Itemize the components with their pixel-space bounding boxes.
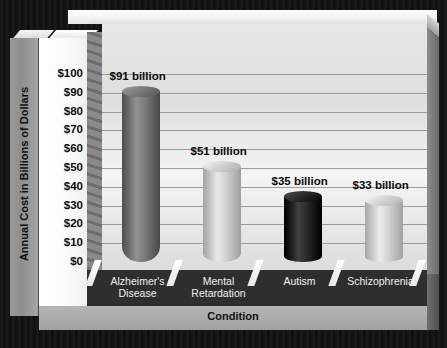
y-axis-tick-label: $70 bbox=[64, 124, 83, 136]
y-axis-tick-label: $0 bbox=[70, 256, 83, 268]
bar-top-ellipse bbox=[122, 86, 160, 97]
x-axis-category-label: Autism bbox=[264, 276, 335, 288]
y-axis-tick-label: $50 bbox=[64, 162, 83, 174]
x-axis-category-label: Mental Retardation bbox=[183, 276, 254, 299]
bar-body bbox=[122, 91, 160, 262]
bar-top-ellipse bbox=[365, 195, 403, 206]
y-axis-tick-panel: $0$10$20$30$40$50$60$70$80$90$100 bbox=[39, 38, 87, 316]
chart-top-bevel bbox=[68, 10, 437, 24]
bar-2[interactable] bbox=[284, 196, 322, 262]
bar-value-label: $33 billion bbox=[353, 179, 409, 191]
y-axis-tick-label: $100 bbox=[57, 68, 83, 80]
chart-screenshot: Annual Cost in Billions of Dollars $0$10… bbox=[0, 0, 447, 348]
right-depth-wall bbox=[427, 28, 439, 287]
floor-right-edge bbox=[427, 274, 439, 330]
axis-side-wall bbox=[87, 32, 102, 270]
x-axis-category-label: Schizophrenia bbox=[345, 276, 416, 288]
bar-top-ellipse bbox=[284, 191, 322, 202]
bar-top-ellipse bbox=[203, 161, 241, 172]
bar-body bbox=[284, 196, 322, 262]
bar-0[interactable] bbox=[122, 91, 160, 262]
y-axis-tick-label: $40 bbox=[64, 181, 83, 193]
bar-body bbox=[203, 166, 241, 262]
bar-1[interactable] bbox=[203, 166, 241, 262]
y-axis-tick-label: $60 bbox=[64, 143, 83, 155]
y-axis-tick-label: $20 bbox=[64, 218, 83, 230]
y-axis-tick-label: $30 bbox=[64, 200, 83, 212]
y-axis-tick-label: $10 bbox=[64, 237, 83, 249]
bar-shadow bbox=[8, 8, 46, 20]
y-axis-title: Annual Cost in Billions of Dollars bbox=[18, 42, 30, 306]
bar-value-label: $51 billion bbox=[191, 145, 247, 157]
x-axis-category-label: Alzheimer's Disease bbox=[102, 276, 173, 299]
y-axis-tick-label: $90 bbox=[64, 87, 83, 99]
bar-value-label: $91 billion bbox=[110, 70, 166, 82]
bar-body bbox=[365, 200, 403, 262]
y-axis-title-panel: Annual Cost in Billions of Dollars bbox=[10, 38, 39, 316]
y-axis-tick-label: $80 bbox=[64, 106, 83, 118]
x-axis-title: Condition bbox=[39, 310, 427, 322]
bar-value-label: $35 billion bbox=[272, 175, 328, 187]
bar-3[interactable] bbox=[365, 200, 403, 262]
bar-chart: Annual Cost in Billions of Dollars $0$10… bbox=[8, 8, 439, 340]
